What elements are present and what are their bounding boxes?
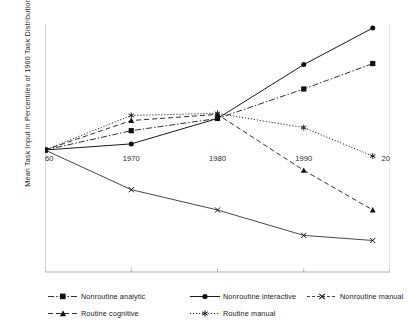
legend-swatch-nonroutine-manual [307,291,337,302]
plot-area: 38404244464850525456586062 1960197019801… [45,18,390,274]
legend-label: Nonroutine manual [340,292,403,301]
data-point-triangle [370,207,376,212]
legend-row-1: Nonroutine analytic Nonroutine interacti… [0,290,415,303]
x-tick-label: 1960 [45,154,53,163]
data-point-star [370,153,375,159]
legend-label: Nonroutine interactive [223,292,296,301]
legend-label: Routine cognitive [81,309,139,318]
series-nonroutine-analytic [45,61,375,153]
data-point-cross [129,187,134,192]
data-point-circle [370,26,375,31]
line-chart-svg: 38404244464850525456586062 1960197019801… [45,18,390,274]
x-tick-label: 1990 [295,154,312,163]
data-point-square [370,61,375,66]
series-routine-manual [45,110,375,159]
legend-swatch-routine-manual [190,308,220,319]
data-point-square [129,128,134,133]
legend-item-nonroutine-manual[interactable]: Nonroutine manual [307,290,403,303]
data-point-triangle [301,167,307,172]
legend-label: Routine manual [223,309,276,318]
legend-label: Nonroutine analytic [81,292,145,301]
legend-swatch-nonroutine-analytic [48,291,78,302]
legend-swatch-routine-cognitive [48,308,78,319]
legend-item-nonroutine-interactive[interactable]: Nonroutine interactive [190,290,296,303]
data-point-cross [215,207,220,212]
legend-item-nonroutine-analytic[interactable]: Nonroutine analytic [48,290,145,303]
data-point-square [301,86,306,91]
x-tick-label: 1970 [123,154,140,163]
data-point-circle [129,141,134,146]
legend-swatch-nonroutine-interactive [190,291,220,302]
x-tick-label: 1980 [209,154,226,163]
x-axis-ticks: 19601970198019902000 [45,154,390,273]
x-tick-label: 2000 [382,154,390,163]
legend-item-routine-manual[interactable]: Routine manual [190,307,276,320]
axis-frame [45,24,390,272]
series-group [45,26,376,244]
legend-item-routine-cognitive[interactable]: Routine cognitive [48,307,139,320]
data-point-circle [301,62,306,67]
chart-page: Mean Task Input in Percentiles of 1960 T… [0,0,415,334]
data-point-star [129,112,134,118]
legend-row-2: Routine cognitive Routine manual [0,307,415,320]
y-axis-label: Mean Task Input in Percentiles of 1960 T… [23,0,32,203]
chart-legend: Nonroutine analytic Nonroutine interacti… [0,288,415,334]
figure: Mean Task Input in Percentiles of 1960 T… [0,0,415,288]
